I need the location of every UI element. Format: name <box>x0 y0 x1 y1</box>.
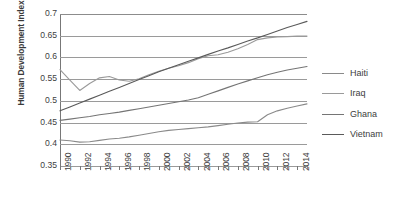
x-tick-mark-major <box>258 166 259 170</box>
x-tick-mark-major <box>238 166 239 170</box>
x-tick-label: 2004 <box>202 153 212 171</box>
x-tick-mark-minor <box>228 166 229 169</box>
legend-item-haiti[interactable]: Haiti <box>322 63 412 84</box>
legend-swatch-icon <box>322 134 344 135</box>
y-tick-label: 0.7 <box>17 9 57 18</box>
x-tick-label: 2008 <box>241 153 251 171</box>
x-tick-mark-minor <box>208 166 209 169</box>
series-lines <box>60 14 307 166</box>
x-tick-mark-minor <box>129 166 130 169</box>
x-tick-mark-major <box>159 166 160 170</box>
x-tick-mark-minor <box>287 166 288 169</box>
x-tick-label: 2002 <box>182 153 192 171</box>
x-tick-label: 1990 <box>63 153 73 171</box>
legend-item-label: Ghana <box>350 110 377 119</box>
x-tick-mark-major <box>119 166 120 170</box>
y-axis-ticks: 0.70.650.60.550.50.450.40.35 <box>13 0 57 221</box>
y-tick-label: 0.55 <box>17 74 57 83</box>
y-tick-label: 0.5 <box>17 96 57 105</box>
x-tick-label: 2012 <box>281 153 291 171</box>
y-tick-label: 0.6 <box>17 52 57 61</box>
x-tick-label: 1998 <box>142 153 152 171</box>
x-tick-mark-major <box>60 166 61 170</box>
x-tick-label: 1996 <box>123 153 133 171</box>
x-tick-mark-major <box>277 166 278 170</box>
legend-item-label: Iraq <box>350 89 366 98</box>
x-tick-mark-major <box>179 166 180 170</box>
x-tick-mark-minor <box>188 166 189 169</box>
y-tick-label: 0.4 <box>17 139 57 148</box>
x-tick-label: 2000 <box>162 153 172 171</box>
x-tick-label: 2006 <box>221 153 231 171</box>
series-line-haiti <box>60 104 307 142</box>
x-tick-mark-minor <box>307 166 308 169</box>
series-line-ghana <box>60 67 307 121</box>
x-tick-label: 2010 <box>261 153 271 171</box>
x-tick-mark-minor <box>248 166 249 169</box>
legend-item-vietnam[interactable]: Vietnam <box>322 125 412 146</box>
legend-item-ghana[interactable]: Ghana <box>322 104 412 125</box>
series-line-vietnam <box>60 21 307 110</box>
x-tick-mark-major <box>139 166 140 170</box>
x-tick-mark-major <box>100 166 101 170</box>
legend-item-label: Haiti <box>350 69 368 78</box>
x-tick-mark-minor <box>70 166 71 169</box>
y-tick-label: 0.45 <box>17 118 57 127</box>
x-tick-mark-minor <box>267 166 268 169</box>
x-tick-label: 1994 <box>103 153 113 171</box>
y-tick-label: 0.65 <box>17 31 57 40</box>
legend-item-label: Vietnam <box>350 130 383 139</box>
legend-swatch-icon <box>322 93 344 94</box>
plot-area <box>60 14 307 166</box>
line-chart: Human Development Index 0.70.650.60.550.… <box>0 0 413 221</box>
legend-swatch-icon <box>322 114 344 115</box>
x-tick-mark-major <box>218 166 219 170</box>
x-tick-label: 2014 <box>301 153 311 171</box>
chart-legend: HaitiIraqGhanaVietnam <box>322 63 412 145</box>
x-tick-mark-minor <box>90 166 91 169</box>
x-tick-mark-minor <box>109 166 110 169</box>
legend-item-iraq[interactable]: Iraq <box>322 84 412 105</box>
x-tick-mark-major <box>198 166 199 170</box>
x-tick-mark-minor <box>169 166 170 169</box>
x-tick-mark-minor <box>149 166 150 169</box>
x-tick-label: 1992 <box>83 153 93 171</box>
legend-swatch-icon <box>322 73 344 74</box>
y-tick-label: 0.35 <box>17 161 57 170</box>
x-tick-mark-major <box>297 166 298 170</box>
x-tick-mark-major <box>80 166 81 170</box>
